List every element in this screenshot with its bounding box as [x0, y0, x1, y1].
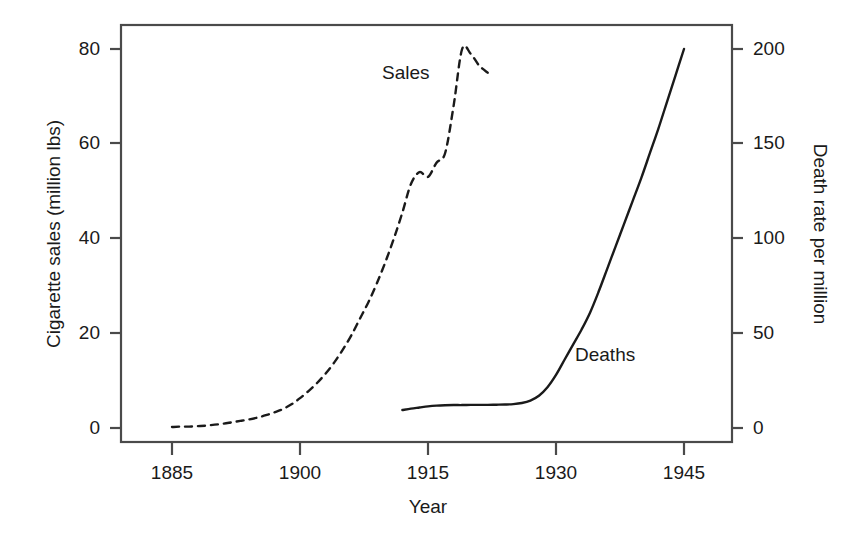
y-right-tick-label-200: 200 — [753, 38, 785, 60]
data-series-layer — [172, 46, 684, 427]
y-axis-right-ticks — [732, 49, 743, 428]
y-right-tick-label-150: 150 — [753, 132, 785, 154]
y-right-tick-label-100: 100 — [753, 227, 785, 249]
y-left-tick-label-60: 60 — [79, 132, 100, 154]
x-tick-label-1: 1885 — [151, 462, 193, 484]
chart-figure: 1885 1900 1915 1930 1945 80 60 40 20 0 2… — [0, 0, 858, 538]
x-axis-ticks — [172, 442, 684, 455]
y-left-tick-label-20: 20 — [79, 322, 100, 344]
sales-series-label: Sales — [382, 62, 430, 84]
deaths-series-label: Deaths — [575, 344, 635, 366]
axis-frame — [121, 25, 732, 442]
x-axis-title: Year — [409, 496, 447, 518]
y-right-tick-label-50: 50 — [753, 322, 774, 344]
y-axis-left-title: Cigarette sales (million lbs) — [43, 120, 65, 348]
y-axis-right-title: Death rate per million — [809, 144, 831, 325]
y-left-tick-label-80: 80 — [79, 38, 100, 60]
series-line-deaths — [402, 49, 684, 410]
y-axis-left-ticks — [110, 49, 121, 428]
x-tick-label-4: 1930 — [535, 462, 577, 484]
x-tick-label-5: 1945 — [663, 462, 705, 484]
plot-border — [121, 25, 732, 442]
series-line-sales — [172, 46, 488, 427]
y-right-tick-label-0: 0 — [753, 417, 764, 439]
x-tick-label-2: 1900 — [279, 462, 321, 484]
y-left-tick-label-0: 0 — [89, 417, 100, 439]
y-left-tick-label-40: 40 — [79, 227, 100, 249]
x-tick-label-3: 1915 — [407, 462, 449, 484]
